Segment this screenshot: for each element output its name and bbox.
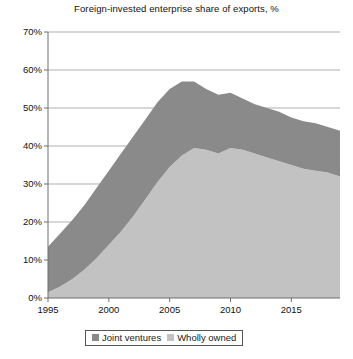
legend-label-wholly-owned: Wholly owned <box>177 333 236 343</box>
chart-container: Foreign-invested enterprise share of exp… <box>0 0 353 359</box>
x-axis-tick-label: 2015 <box>271 304 311 315</box>
legend-item-wholly-owned[interactable]: Wholly owned <box>167 333 236 343</box>
legend-swatch-wholly-owned <box>167 334 174 341</box>
y-axis-tick-label: 0% <box>2 292 42 303</box>
x-axis-tick-label: 2010 <box>211 304 251 315</box>
legend-swatch-joint-ventures <box>92 334 99 341</box>
y-axis-tick-label: 10% <box>2 254 42 265</box>
x-axis-tick-label: 2005 <box>150 304 190 315</box>
y-axis-tick-label: 50% <box>2 102 42 113</box>
y-axis-tick-label: 20% <box>2 216 42 227</box>
legend-item-joint-ventures[interactable]: Joint ventures <box>92 333 161 343</box>
x-axis-tick-label: 2000 <box>89 304 129 315</box>
y-axis-tick-label: 40% <box>2 140 42 151</box>
y-axis-tick-label: 30% <box>2 178 42 189</box>
chart-legend: Joint ventures Wholly owned <box>85 330 243 346</box>
y-axis-tick-label: 70% <box>2 26 42 37</box>
x-axis-tick-label: 1995 <box>28 304 68 315</box>
y-axis-tick-label: 60% <box>2 64 42 75</box>
legend-label-joint-ventures: Joint ventures <box>102 333 161 343</box>
